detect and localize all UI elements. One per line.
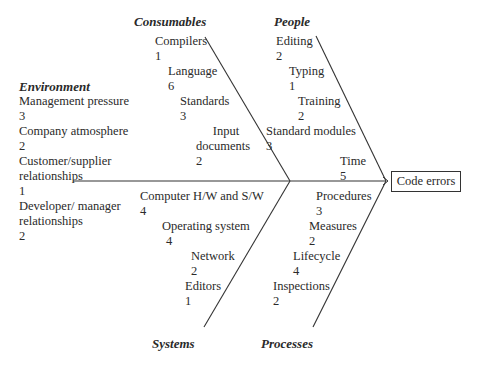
cause-count: 2 — [298, 109, 304, 124]
category-systems: Systems — [152, 336, 195, 351]
cause-count: 3 — [266, 139, 272, 154]
cause-label: Training — [298, 94, 341, 109]
cause-label: Language — [168, 64, 217, 79]
effect-box: Code errors — [391, 171, 461, 192]
cause-label: documents — [196, 139, 250, 154]
cause-label: Compilers — [155, 34, 207, 49]
cause-label: Developer/ manager — [19, 199, 121, 214]
cause-count: 6 — [168, 79, 174, 94]
cause-count: 3 — [316, 204, 322, 219]
cause-label: Editing — [276, 34, 313, 49]
cause-label: Measures — [309, 219, 357, 234]
cause-count: 1 — [19, 184, 25, 199]
cause-label: Management pressure — [19, 94, 129, 109]
cause-label: Network — [191, 249, 235, 264]
cause-label: Input — [196, 124, 256, 139]
cause-label: Computer H/W and S/W — [140, 189, 264, 204]
cause-count: 2 — [276, 49, 282, 64]
category-consumables: Consumables — [134, 14, 206, 29]
fishbone-diagram: Code errors Consumables Compilers 1 Lang… — [0, 0, 481, 369]
category-environment: Environment — [19, 79, 90, 94]
cause-count: 4 — [166, 234, 172, 249]
cause-label: Customer/supplier — [19, 154, 111, 169]
cause-label: Inspections — [273, 279, 330, 294]
cause-count: 1 — [185, 294, 191, 309]
cause-label: Typing — [289, 64, 324, 79]
cause-count: 2 — [273, 294, 279, 309]
cause-label: Procedures — [316, 189, 372, 204]
cause-count: 1 — [289, 79, 295, 94]
cause-label: Operating system — [162, 219, 250, 234]
category-processes: Processes — [261, 336, 313, 351]
cause-label: relationships — [19, 169, 83, 184]
cause-label: relationships — [19, 214, 83, 229]
cause-label: Company atmosphere — [19, 124, 128, 139]
cause-count: 1 — [155, 49, 161, 64]
cause-label: Editors — [185, 279, 221, 294]
cause-count: 3 — [180, 109, 186, 124]
cause-count: 2 — [19, 229, 25, 244]
cause-label: Standards — [180, 94, 229, 109]
cause-count: 5 — [340, 169, 346, 184]
cause-count: 2 — [309, 234, 315, 249]
cause-count: 4 — [293, 264, 299, 279]
cause-label: Time — [340, 154, 366, 169]
cause-count: 2 — [196, 154, 202, 169]
cause-count: 4 — [140, 204, 146, 219]
cause-label: Lifecycle — [293, 249, 340, 264]
cause-count: 2 — [19, 139, 25, 154]
category-people: People — [274, 14, 310, 29]
cause-count: 3 — [19, 109, 25, 124]
cause-label: Standard modules — [266, 124, 356, 139]
cause-count: 2 — [191, 264, 197, 279]
